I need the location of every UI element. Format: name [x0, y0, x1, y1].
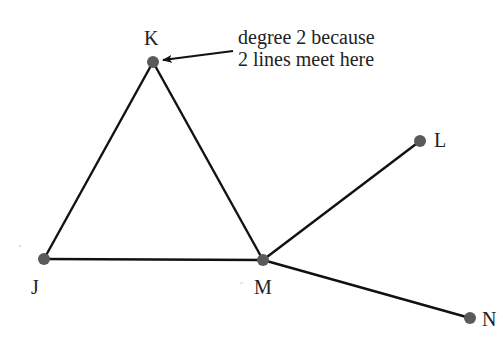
node-label-l: L [434, 130, 446, 150]
node-l [414, 135, 426, 147]
node-label-j: J [31, 277, 39, 297]
annotation-line-1: degree 2 because [238, 26, 375, 48]
node-label-m: M [254, 277, 272, 297]
edge-j-m [44, 259, 263, 260]
edge-m-l [263, 141, 420, 260]
node-j [38, 253, 50, 265]
node-m [257, 254, 269, 266]
node-label-k: K [144, 28, 158, 48]
annotation-line-2: 2 lines meet here [238, 48, 375, 70]
edge-k-m [153, 62, 263, 260]
edge-m-n [263, 260, 470, 318]
annotation-arrow [163, 51, 233, 60]
scan-speck [240, 282, 243, 284]
node-label-n: N [482, 309, 496, 329]
annotation-text: degree 2 because 2 lines meet here [238, 26, 375, 70]
node-k [147, 56, 159, 68]
edge-k-j [44, 62, 153, 259]
node-n [464, 312, 476, 324]
scan-speck [19, 245, 21, 247]
